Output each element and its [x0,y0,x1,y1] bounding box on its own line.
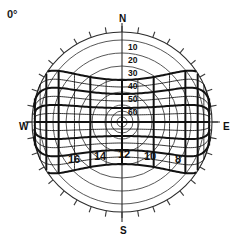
cardinal-east-label: E [223,122,230,132]
azimuth-tick [167,200,170,205]
hour-angle-label: 10 [144,150,156,162]
azimuth-tick [167,39,170,44]
cardinal-north-label: N [119,14,126,24]
azimuth-tick [27,105,33,106]
azimuth-tick [39,74,44,77]
azimuth-tick [211,138,217,139]
hour-angle-label: 14 [94,150,107,162]
azimuth-tick [32,153,38,155]
azimuth-tick [138,211,139,217]
azimuth-tick [191,180,196,184]
azimuth-tick [74,200,77,205]
azimuth-tick [60,191,64,196]
altitude-label: 40 [128,81,138,91]
azimuth-tick [48,180,53,184]
cardinal-west-label: W [19,122,28,132]
azimuth-tick [191,60,196,64]
azimuth-tick [74,39,77,44]
altitude-label: 30 [128,68,138,78]
azimuth-tick [200,167,205,170]
azimuth-tick [138,27,139,33]
altitude-label: 20 [128,55,138,65]
azimuth-tick [200,74,205,77]
azimuth-tick [207,89,213,91]
azimuth-tick [39,167,44,170]
azimuth-tick [211,105,217,106]
azimuth-tick [27,138,33,139]
hour-angle-label: 12 [118,148,130,160]
azimuth-tick [153,207,155,213]
azimuth-tick [105,27,106,33]
altitude-label: 10 [128,42,138,52]
hour-angle-label: 8 [175,153,181,165]
azimuth-tick [48,60,53,64]
azimuth-tick [180,191,184,196]
altitude-label: 50 [128,94,138,104]
altitude-label: 60 [128,107,138,117]
azimuth-tick [89,207,91,213]
azimuth-tick [180,48,184,53]
azimuth-tick [32,89,38,91]
azimuth-tick [105,211,106,217]
diagram-canvas: 102030405060 161412108 0° N S W E [0,0,245,246]
azimuth-tick [153,32,155,38]
hour-angle-label: 16 [68,153,80,165]
azimuth-tick [60,48,64,53]
horizon-diagram: 102030405060 161412108 [0,0,245,246]
hour-label-group: 161412108 [68,148,181,165]
azimuth-tick [207,153,213,155]
latitude-label: 0° [7,9,18,20]
cardinal-south-label: S [120,226,127,236]
azimuth-tick [89,32,91,38]
